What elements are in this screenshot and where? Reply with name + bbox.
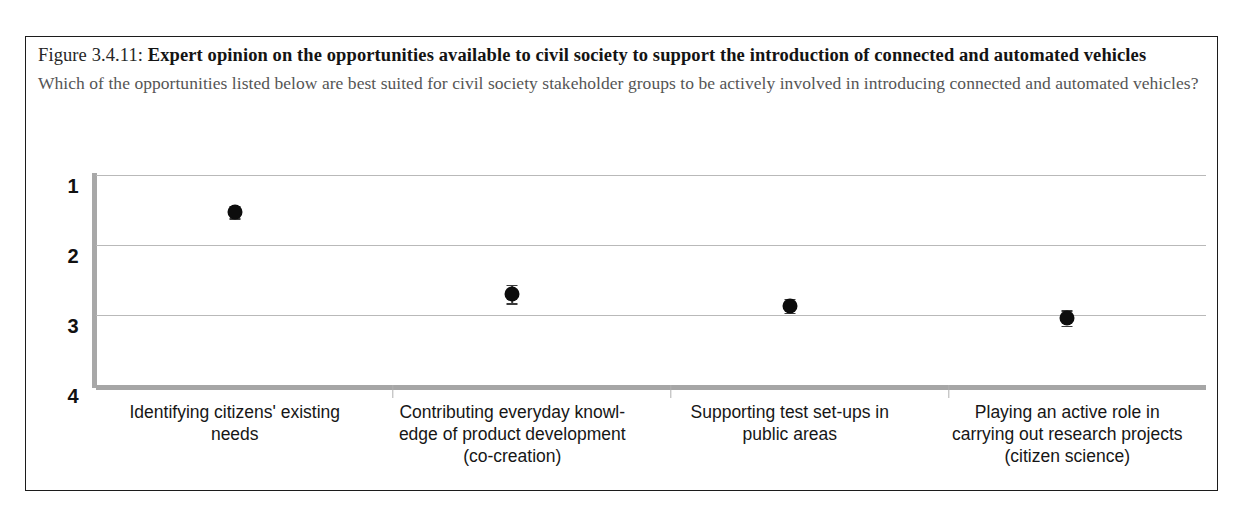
y-tick-label-1: 1 xyxy=(56,175,90,198)
figure-question: Which of the opportunities listed below … xyxy=(38,72,1203,95)
x-axis-category-label: Identifying citizens' existingneeds xyxy=(102,401,368,445)
x-axis-tick-3 xyxy=(948,385,949,398)
x-axis-tick-2 xyxy=(670,385,671,398)
x-axis-category-label: Contributing everyday knowl-edge of prod… xyxy=(380,401,646,467)
y-tick-label-4: 4 xyxy=(56,385,90,408)
gridline-2 xyxy=(96,245,1206,246)
error-cap-lower xyxy=(1062,326,1073,328)
category-label-line: Playing an active role in xyxy=(935,401,1201,423)
data-point xyxy=(227,205,242,220)
error-cap-lower xyxy=(507,303,518,305)
category-label-line: public areas xyxy=(657,423,923,445)
figure-caption: Figure 3.4.11: Expert opinion on the opp… xyxy=(38,44,1203,95)
category-label-line: edge of product development xyxy=(380,423,646,445)
data-point xyxy=(782,298,797,313)
category-label-line: Identifying citizens' existing xyxy=(102,401,368,423)
figure-number: Figure 3.4.11: xyxy=(38,45,143,65)
category-label-line: (citizen science) xyxy=(935,445,1201,467)
category-label-line: Supporting test set-ups in xyxy=(657,401,923,423)
category-label-line: (co-creation) xyxy=(380,445,646,467)
y-tick-label-2: 2 xyxy=(56,245,90,268)
data-point xyxy=(1060,310,1075,325)
category-label-line: carrying out research projects xyxy=(935,423,1201,445)
figure-title: Expert opinion on the opportunities avai… xyxy=(148,45,1146,65)
x-axis-category-label: Playing an active role incarrying out re… xyxy=(935,401,1201,467)
gridline-1 xyxy=(96,175,1206,176)
x-axis-baseline xyxy=(96,385,1206,390)
figure-container: Figure 3.4.11: Expert opinion on the opp… xyxy=(25,36,1218,491)
footnote-sliver xyxy=(600,505,1220,515)
x-axis-category-label: Supporting test set-ups inpublic areas xyxy=(657,401,923,445)
plot-area xyxy=(96,175,1206,385)
gridline-3 xyxy=(96,315,1206,316)
category-label-line: Contributing everyday knowl- xyxy=(380,401,646,423)
data-point xyxy=(505,287,520,302)
y-tick-label-3: 3 xyxy=(56,315,90,338)
x-axis-tick-1 xyxy=(392,385,393,398)
category-label-line: needs xyxy=(102,423,368,445)
caption-title-line: Figure 3.4.11: Expert opinion on the opp… xyxy=(38,44,1203,67)
